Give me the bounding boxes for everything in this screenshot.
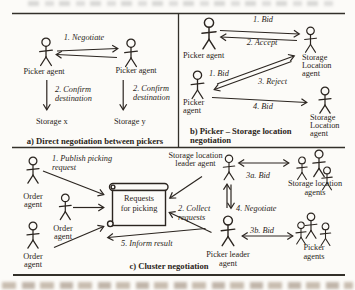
storage-location-agent-icon xyxy=(313,150,325,177)
collect-arrow-upper xyxy=(170,177,202,199)
negotiate-label: 1. Negotiate xyxy=(55,34,113,42)
negotiate-arrow-left xyxy=(57,55,118,58)
negotiate4-label: 4. Negotiate xyxy=(236,205,277,213)
bid1-label: 1. Bid xyxy=(243,16,283,24)
storage-x-label: Storage x xyxy=(36,118,68,126)
picker-agent-icon xyxy=(40,38,53,65)
picker-agent-icon xyxy=(305,213,317,238)
order-agent-label: Order agent xyxy=(18,253,48,270)
picker-agents-label: Picker agents xyxy=(288,244,340,262)
confirm-destination-label: 2. Confirm destination xyxy=(133,84,170,102)
storage-location-agent-label: Storage Location agent xyxy=(310,114,340,139)
publish-arrow-1 xyxy=(43,171,104,195)
picker-agent-icon xyxy=(296,222,306,244)
bid3b-label: 3b. Bid xyxy=(250,227,274,235)
panel-c-caption: c) Cluster negotiation xyxy=(110,262,228,270)
picker-agent-icon xyxy=(191,71,204,98)
panel-b-caption: b) Picker – Storage location negotiation xyxy=(190,127,292,145)
bid4-label: 4. Bid xyxy=(253,103,273,111)
picker-agent-label: Picker agent xyxy=(17,68,71,76)
panel-a-caption: a) Direct negotiation between pickers xyxy=(13,137,177,145)
bid1-lower-label: 1. Bid xyxy=(209,70,229,78)
storage-location-agent-icon xyxy=(305,27,317,52)
order-agent-label: Order agent xyxy=(48,225,78,242)
bid3a-label: 3a. Bid xyxy=(246,172,270,180)
inform-result-arrow xyxy=(108,229,206,238)
storage-location-leader-agent-icon xyxy=(223,155,234,180)
publish-request-label: 1. Publish picking request xyxy=(52,154,112,172)
confirm-destination-label: 2. Confirm destination xyxy=(55,85,92,103)
bid1-arrow xyxy=(220,31,299,35)
picker-leader-agent-icon xyxy=(221,216,235,246)
figure-canvas: 1. Negotiate Picker agent Picker agent 2… xyxy=(0,0,355,290)
storage-location-agent-label: Storage Location agent xyxy=(302,54,332,79)
picker-agent-label: Picker agent xyxy=(183,99,204,116)
accept-label: 2. Accept xyxy=(240,39,284,47)
storage-location-agents-label: Storage location agents xyxy=(287,180,343,198)
storage-location-leader-label: Storage location leader agent xyxy=(168,152,223,170)
reject-label: 3. Reject xyxy=(258,78,287,86)
storage-location-agent-icon xyxy=(319,87,331,113)
order-agent-icon xyxy=(27,222,39,248)
requests-board-label: Requests for picking xyxy=(113,194,165,214)
picker-agent-label: Picker agent xyxy=(183,52,224,60)
storage-location-agent-icon xyxy=(297,157,307,179)
picker-agent-label: Picker agent xyxy=(109,67,163,75)
collect-requests-label: 2. Collect requests xyxy=(178,204,210,222)
storage-y-label: Storage y xyxy=(114,118,146,126)
order-agent-icon xyxy=(27,157,39,183)
inform-result-label: 5. Inform result xyxy=(121,240,173,248)
order-agent-icon xyxy=(59,194,71,219)
order-agent-label: Order agent xyxy=(18,193,48,210)
picker-agent-icon xyxy=(202,18,216,49)
picker-agent-icon xyxy=(125,39,138,66)
negotiate-arrow-right xyxy=(57,49,118,52)
